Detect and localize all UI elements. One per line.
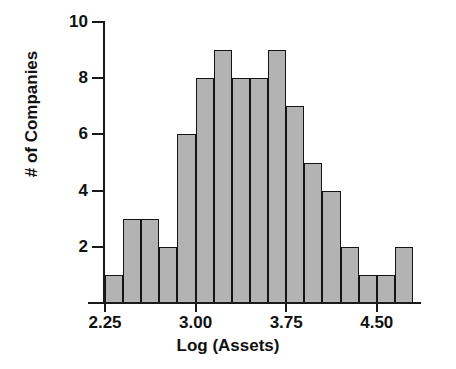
histogram-bar — [214, 50, 232, 303]
x-axis-line — [88, 302, 421, 304]
y-axis-tick — [92, 246, 104, 248]
x-axis-tick — [104, 303, 106, 312]
x-axis-title: Log (Assets) — [0, 336, 456, 356]
y-axis-tick-label: 10 — [52, 13, 88, 30]
histogram-bar — [159, 247, 177, 303]
x-axis-tick — [376, 303, 378, 312]
histogram-bar — [341, 247, 359, 303]
y-axis-tick-label: 8 — [52, 69, 88, 86]
histogram-bar — [268, 50, 286, 303]
histogram-bar — [196, 78, 214, 303]
x-axis-tick — [285, 303, 287, 312]
histogram-bar — [177, 134, 195, 303]
y-axis-tick — [92, 133, 104, 135]
histogram-bar — [322, 191, 340, 303]
histogram-figure: 246810 2.253.003.754.50 # of Companies L… — [0, 0, 456, 369]
histogram-bar — [141, 219, 159, 303]
y-axis-tick-label: 6 — [52, 125, 88, 142]
histogram-bar — [395, 247, 413, 303]
y-axis-title: # of Companies — [22, 14, 42, 214]
histogram-bar — [377, 275, 395, 303]
x-axis-tick — [195, 303, 197, 312]
histogram-bar — [359, 275, 377, 303]
histogram-bar — [286, 106, 304, 303]
x-axis-tick-label: 2.25 — [70, 314, 140, 331]
histogram-bar — [232, 78, 250, 303]
histogram-bar — [105, 275, 123, 303]
x-axis-tick-label: 4.50 — [342, 314, 412, 331]
histogram-bar — [123, 219, 141, 303]
x-axis-tick-label: 3.00 — [161, 314, 231, 331]
y-axis-tick — [92, 190, 104, 192]
y-axis-tick-labels: 246810 — [44, 0, 88, 320]
y-axis-tick-label: 2 — [52, 238, 88, 255]
x-axis-tick-label: 3.75 — [251, 314, 321, 331]
histogram-bar — [250, 78, 268, 303]
y-axis-line — [103, 21, 105, 304]
y-axis-tick — [92, 21, 104, 23]
y-axis-tick — [92, 77, 104, 79]
histogram-bar — [304, 163, 322, 304]
plot-area — [105, 22, 413, 303]
y-axis-tick-label: 4 — [52, 182, 88, 199]
